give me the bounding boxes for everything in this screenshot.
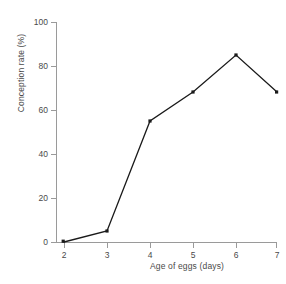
data-point-marker — [105, 229, 108, 232]
data-point-marker — [62, 240, 65, 243]
data-point-marker — [275, 90, 278, 93]
data-point-marker — [191, 90, 194, 93]
data-series-conception-rate — [62, 53, 279, 242]
chart-container: Conception rate (%) Age of eggs (days) 1… — [0, 0, 286, 284]
y-axis — [51, 22, 57, 243]
data-point-marker — [148, 119, 151, 122]
data-point-marker — [234, 53, 237, 56]
plot-area — [0, 0, 286, 284]
data-line — [64, 55, 277, 242]
x-axis — [57, 243, 278, 249]
